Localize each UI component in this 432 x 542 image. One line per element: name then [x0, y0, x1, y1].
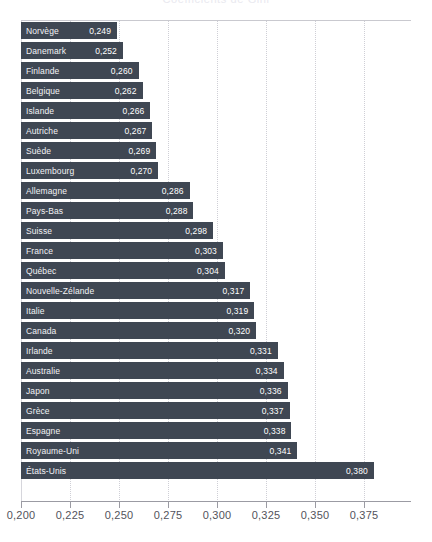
bar-value-label: 0,341: [270, 446, 292, 456]
bar-value-label: 0,269: [128, 146, 150, 156]
bar-row[interactable]: Irlande0,331: [21, 342, 411, 362]
bar-row[interactable]: États-Unis0,380: [21, 462, 411, 482]
bar-category-label: Nouvelle-Zélande: [26, 286, 94, 296]
bar-value-label: 0,288: [166, 206, 188, 216]
bar-category-label: Canada: [26, 326, 56, 336]
bar-category-label: Finlande: [26, 66, 59, 76]
bar[interactable]: Grèce0,337: [21, 402, 290, 419]
bar-row[interactable]: Québec0,304: [21, 262, 411, 282]
bar-value-label: 0,298: [185, 226, 207, 236]
bar-row[interactable]: Finlande0,260: [21, 62, 411, 82]
bar-category-label: Irlande: [26, 346, 53, 356]
bar-category-label: Australie: [26, 366, 60, 376]
bar[interactable]: Québec0,304: [21, 262, 225, 279]
bar-row[interactable]: Espagne0,338: [21, 422, 411, 442]
bar-category-label: Québec: [26, 266, 56, 276]
bar-value-label: 0,262: [115, 86, 137, 96]
bar[interactable]: Irlande0,331: [21, 342, 278, 359]
bar-value-label: 0,252: [95, 46, 117, 56]
x-axis-tick-labels: 0,2000,2250,2500,2750,3000,3250,3500,375: [0, 509, 432, 529]
bar-value-label: 0,331: [250, 346, 272, 356]
bar[interactable]: Royaume-Uni0,341: [21, 442, 297, 459]
bar-row[interactable]: Suisse0,298: [21, 222, 411, 242]
x-axis-tick: [168, 502, 169, 508]
bar-row[interactable]: Belgique0,262: [21, 82, 411, 102]
bar[interactable]: Espagne0,338: [21, 422, 291, 439]
bar-value-label: 0,270: [130, 166, 152, 176]
bar[interactable]: Australie0,334: [21, 362, 284, 379]
bar-row[interactable]: Canada0,320: [21, 322, 411, 342]
bar-row[interactable]: Japon0,336: [21, 382, 411, 402]
bar-value-label: 0,336: [260, 386, 282, 396]
bar[interactable]: Canada0,320: [21, 322, 256, 339]
x-axis: [21, 501, 411, 508]
x-axis-tick: [21, 502, 22, 508]
bar[interactable]: Allemagne0,286: [21, 182, 190, 199]
bar[interactable]: Belgique0,262: [21, 82, 143, 99]
bar-category-label: Autriche: [26, 126, 58, 136]
bar-series: Norvège0,249Danemark0,252Finlande0,260Be…: [21, 22, 411, 482]
bar[interactable]: Autriche0,267: [21, 122, 152, 139]
x-axis-tick: [217, 502, 218, 508]
bar-category-label: Espagne: [26, 426, 60, 436]
bar[interactable]: États-Unis0,380: [21, 462, 374, 479]
bar-category-label: Suisse: [26, 226, 52, 236]
bar-row[interactable]: Grèce0,337: [21, 402, 411, 422]
bar-value-label: 0,304: [197, 266, 219, 276]
bar-row[interactable]: Autriche0,267: [21, 122, 411, 142]
bar[interactable]: Italie0,319: [21, 302, 254, 319]
bar[interactable]: Pays-Bas0,288: [21, 202, 193, 219]
bar[interactable]: France0,303: [21, 242, 223, 259]
x-axis-tick-label: 0,250: [105, 509, 134, 521]
x-axis-tick-label: 0,200: [7, 509, 36, 521]
bar[interactable]: Finlande0,260: [21, 62, 139, 79]
bar-row[interactable]: Italie0,319: [21, 302, 411, 322]
x-axis-tick-label: 0,300: [203, 509, 232, 521]
bar[interactable]: Suède0,269: [21, 142, 156, 159]
x-axis-tick-label: 0,375: [350, 509, 379, 521]
bar-category-label: Suède: [26, 146, 51, 156]
bar-value-label: 0,338: [264, 426, 286, 436]
x-axis-tick: [266, 502, 267, 508]
bar-row[interactable]: Luxembourg0,270: [21, 162, 411, 182]
bar-value-label: 0,266: [123, 106, 145, 116]
x-axis-tick-label: 0,225: [56, 509, 85, 521]
bar-row[interactable]: Islande0,266: [21, 102, 411, 122]
bar-row[interactable]: Pays-Bas0,288: [21, 202, 411, 222]
bar-category-label: Pays-Bas: [26, 206, 63, 216]
bar-category-label: Italie: [26, 306, 45, 316]
bar-row[interactable]: Norvège0,249: [21, 22, 411, 42]
bar[interactable]: Norvège0,249: [21, 22, 117, 39]
x-axis-tick: [119, 502, 120, 508]
bar-value-label: 0,317: [223, 286, 245, 296]
bar-value-label: 0,286: [162, 186, 184, 196]
x-axis-tick: [315, 502, 316, 508]
bar[interactable]: Danemark0,252: [21, 42, 123, 59]
bar-category-label: Royaume-Uni: [26, 446, 79, 456]
bar[interactable]: Luxembourg0,270: [21, 162, 158, 179]
x-axis-tick-label: 0,350: [301, 509, 330, 521]
bar-row[interactable]: Australie0,334: [21, 362, 411, 382]
bar-value-label: 0,249: [89, 26, 111, 36]
bar[interactable]: Japon0,336: [21, 382, 288, 399]
bar-value-label: 0,334: [256, 366, 278, 376]
bar[interactable]: Suisse0,298: [21, 222, 213, 239]
bar-row[interactable]: Suède0,269: [21, 142, 411, 162]
x-axis-tick-label: 0,325: [252, 509, 281, 521]
bar-row[interactable]: Allemagne0,286: [21, 182, 411, 202]
bar-row[interactable]: France0,303: [21, 242, 411, 262]
bar-row[interactable]: Danemark0,252: [21, 42, 411, 62]
bar-category-label: États-Unis: [26, 466, 66, 476]
bar-row[interactable]: Royaume-Uni0,341: [21, 442, 411, 462]
bar-row[interactable]: Nouvelle-Zélande0,317: [21, 282, 411, 302]
bar-category-label: Danemark: [26, 46, 66, 56]
bar-value-label: 0,380: [346, 466, 368, 476]
bar-value-label: 0,303: [195, 246, 217, 256]
bar-category-label: Grèce: [26, 406, 50, 416]
bar[interactable]: Nouvelle-Zélande0,317: [21, 282, 250, 299]
bar-value-label: 0,337: [262, 406, 284, 416]
bar-value-label: 0,320: [228, 326, 250, 336]
bar[interactable]: Islande0,266: [21, 102, 150, 119]
x-axis-tick: [364, 502, 365, 508]
bar-category-label: Belgique: [26, 86, 60, 96]
